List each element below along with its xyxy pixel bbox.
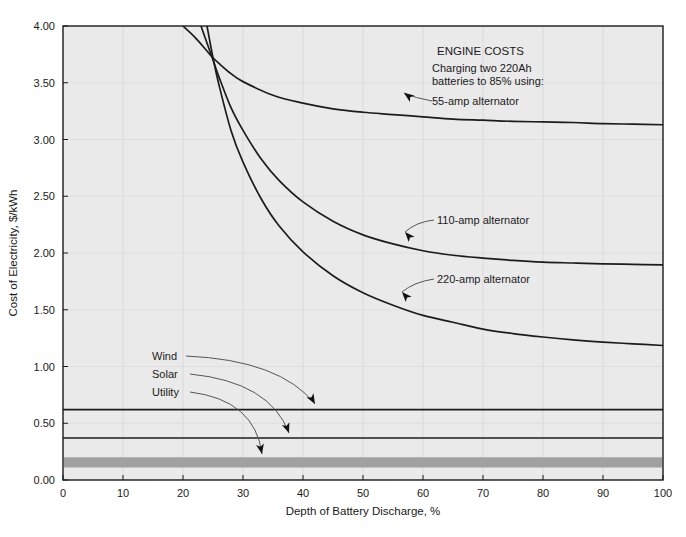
y-tick-label: 2.00	[34, 247, 55, 259]
y-tick-labels: 0.000.501.001.502.002.503.003.504.00	[34, 20, 55, 486]
x-tick-label: 20	[177, 487, 189, 499]
y-tick-label: 3.50	[34, 77, 55, 89]
x-tick-label: 50	[357, 487, 369, 499]
x-tick-label: 0	[60, 487, 66, 499]
reference-bands	[64, 457, 662, 467]
x-tick-labels: 0102030405060708090100	[60, 487, 672, 499]
x-tick-label: 40	[297, 487, 309, 499]
y-tick-label: 1.50	[34, 304, 55, 316]
reference-label-wind: Wind	[152, 350, 177, 362]
y-tick-label: 0.50	[34, 417, 55, 429]
series-label-55-amp-alternator: 55-amp alternator	[432, 95, 519, 107]
x-tick-label: 90	[597, 487, 609, 499]
x-tick-label: 60	[417, 487, 429, 499]
x-axis-title: Depth of Battery Discharge, %	[286, 505, 441, 517]
reference-label-utility: Utility	[152, 386, 179, 398]
engine-costs-line1: Charging two 220Ah	[432, 62, 532, 74]
x-tick-label: 10	[117, 487, 129, 499]
series-label-110-amp-alternator: 110-amp alternator	[437, 214, 529, 226]
y-tick-label: 3.00	[34, 134, 55, 146]
x-tick-label: 30	[237, 487, 249, 499]
cost-of-electricity-line-chart: 0102030405060708090100 0.000.501.001.502…	[0, 0, 686, 537]
reference-band-utility	[64, 457, 662, 467]
reference-label-solar: Solar	[152, 368, 178, 380]
y-tick-label: 1.00	[34, 361, 55, 373]
x-tick-label: 80	[537, 487, 549, 499]
y-tick-label: 4.00	[34, 20, 55, 32]
y-tick-label: 0.00	[34, 474, 55, 486]
chart-root: 0102030405060708090100 0.000.501.001.502…	[0, 0, 686, 537]
y-tick-label: 2.50	[34, 190, 55, 202]
x-tick-label: 100	[654, 487, 672, 499]
engine-costs-line2: batteries to 85% using:	[432, 75, 544, 87]
series-label-220-amp-alternator: 220-amp alternator	[437, 273, 530, 285]
engine-costs-title: ENGINE COSTS	[437, 45, 524, 57]
y-axis-title: Cost of Electricity, $/kWh	[7, 190, 19, 317]
x-tick-label: 70	[477, 487, 489, 499]
